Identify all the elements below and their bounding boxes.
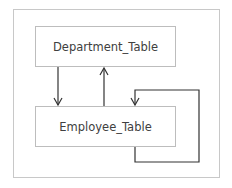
arrow-emp-to-dept [100, 68, 108, 106]
arrow-dept-to-emp [54, 67, 62, 105]
connectors [0, 0, 232, 188]
arrow-emp-self-loop [131, 90, 199, 162]
